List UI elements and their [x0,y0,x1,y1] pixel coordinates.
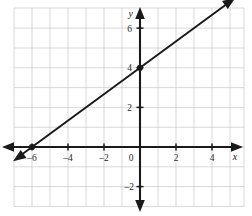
graph-canvas: –6 –4 –2 0 2 4 6 4 2 –2 y x [0,0,252,216]
coordinate-graph-figure: –6 –4 –2 0 2 4 6 4 2 –2 y x [0,0,252,216]
y-tick-label-4: 4 [127,63,132,73]
x-tick-label-neg-4: –4 [62,153,73,163]
y-tick-label-6: 6 [127,24,132,34]
y-tick-label-neg-2: –2 [124,182,135,192]
x-tick-label-neg-2: –2 [98,153,109,163]
y-tick-label-2: 2 [127,103,132,113]
y-axis-label: y [128,8,134,19]
x-tick-label-2: 2 [174,153,179,163]
x-tick-label-neg-6: –6 [26,153,37,163]
point-y-intercept [137,65,143,71]
x-tick-label-0: 0 [129,153,134,163]
x-axis-label: x [232,151,238,162]
point-x-intercept [29,144,35,150]
x-tick-label-4: 4 [210,153,215,163]
